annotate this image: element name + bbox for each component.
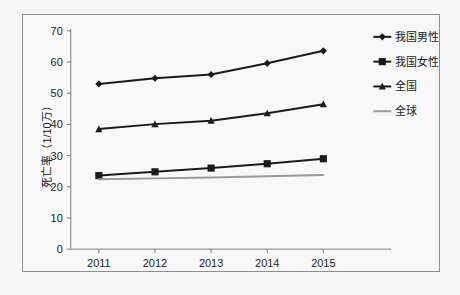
y-tick-label: 0 [57, 243, 63, 255]
y-tick-label: 70 [51, 25, 63, 37]
x-tick-label: 2013 [199, 257, 223, 269]
series-line [99, 104, 324, 129]
legend-item-2[interactable]: 我国女性 [373, 55, 439, 68]
legend-label: 全球 [395, 104, 417, 117]
data-series-layer [95, 47, 327, 179]
legend-item-1[interactable]: 我国男性 [373, 30, 439, 43]
y-axis-ticks: 010203040506070 [51, 25, 71, 255]
legend-label: 全国 [395, 79, 417, 92]
data-point [264, 60, 271, 67]
legend-label: 我国男性 [395, 30, 439, 43]
x-tick-label: 2015 [311, 257, 335, 269]
x-tick-label: 2012 [143, 257, 167, 269]
y-tick-label: 50 [51, 87, 63, 99]
data-point [151, 168, 158, 175]
legend-marker [379, 58, 386, 65]
y-tick-label: 30 [51, 150, 63, 162]
chart-figure: 死亡率（1/10万） 010203040506070 2011201220132… [22, 14, 440, 272]
data-point [95, 172, 102, 179]
series-line [99, 51, 324, 84]
x-axis-ticks: 20112012201320142015 [87, 249, 335, 269]
legend-marker [379, 33, 386, 40]
data-point [95, 80, 102, 87]
data-point [208, 165, 215, 172]
y-axis-title: 死亡率（1/10万） [40, 100, 53, 187]
y-tick-label: 60 [51, 56, 63, 68]
series-1 [95, 47, 327, 87]
x-tick-label: 2014 [255, 257, 279, 269]
data-point [264, 160, 271, 167]
y-tick-label: 20 [51, 181, 63, 193]
axis-frame [71, 29, 391, 249]
axis-lines [71, 29, 391, 249]
legend-label: 我国女性 [395, 55, 439, 68]
data-point [208, 71, 215, 78]
series-line [99, 175, 324, 179]
data-point [320, 47, 327, 54]
y-axis-title-label: 死亡率（1/10万） [40, 100, 53, 187]
legend-item-4[interactable]: 全球 [373, 104, 417, 117]
line-chart: 死亡率（1/10万） 010203040506070 2011201220132… [23, 15, 439, 271]
chart-legend: 我国男性我国女性全国全球 [373, 30, 439, 117]
legend-item-3[interactable]: 全国 [373, 79, 417, 92]
x-tick-label: 2011 [87, 257, 111, 269]
series-3 [95, 101, 327, 133]
data-point [320, 155, 327, 162]
series-4 [99, 175, 324, 179]
y-tick-label: 10 [51, 212, 63, 224]
y-tick-label: 40 [51, 118, 63, 130]
data-point [151, 75, 158, 82]
